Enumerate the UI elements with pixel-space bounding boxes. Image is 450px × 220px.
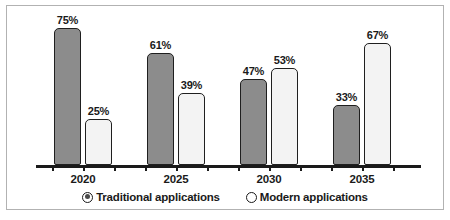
- bar-modern: [85, 119, 112, 165]
- bar-value-label: 67%: [358, 29, 398, 41]
- legend-item-modern[interactable]: Modern applications: [246, 191, 368, 203]
- bar-traditional: [147, 53, 174, 165]
- axis-tick: [238, 165, 240, 171]
- x-axis-label-2030: 2030: [234, 173, 304, 185]
- bar-traditional: [54, 28, 81, 165]
- bar-modern: [364, 43, 391, 165]
- x-axis-label-2025: 2025: [141, 173, 211, 185]
- axis-tick: [269, 165, 271, 171]
- bar-traditional: [333, 105, 360, 165]
- axis-tick: [300, 165, 302, 171]
- axis-tick: [331, 165, 333, 171]
- axis-tick: [145, 165, 147, 171]
- bar-value-label: 61%: [141, 39, 181, 51]
- bar-value-label: 75%: [48, 14, 88, 26]
- axis-tick: [176, 165, 178, 171]
- bar-value-label: 39%: [172, 79, 212, 91]
- bar-value-label: 53%: [265, 54, 305, 66]
- legend-item-traditional[interactable]: Traditional applications: [82, 191, 220, 203]
- axis-tick: [52, 165, 54, 171]
- axis-tick: [362, 165, 364, 171]
- bar-value-label: 47%: [234, 65, 274, 77]
- chart-container: 75% 25% 2020 61% 39% 2025 47% 53%: [0, 0, 450, 220]
- bar-traditional: [240, 79, 267, 165]
- bar-value-label: 33%: [327, 91, 367, 103]
- bar-modern: [271, 68, 298, 165]
- legend-label-traditional: Traditional applications: [96, 191, 220, 203]
- filled-circle-icon: [82, 192, 93, 203]
- bar-modern: [178, 93, 205, 165]
- axis-tick: [393, 165, 395, 171]
- x-axis-label-2035: 2035: [327, 173, 397, 185]
- plot-area: 75% 25% 2020 61% 39% 2025 47% 53%: [6, 5, 444, 210]
- x-axis-label-2020: 2020: [48, 173, 118, 185]
- axis-tick: [114, 165, 116, 171]
- legend-label-modern: Modern applications: [260, 191, 368, 203]
- bar-value-label: 25%: [79, 105, 119, 117]
- chart-legend: Traditional applications Modern applicat…: [6, 191, 444, 203]
- hollow-circle-icon: [246, 192, 257, 203]
- axis-tick: [83, 165, 85, 171]
- axis-tick: [207, 165, 209, 171]
